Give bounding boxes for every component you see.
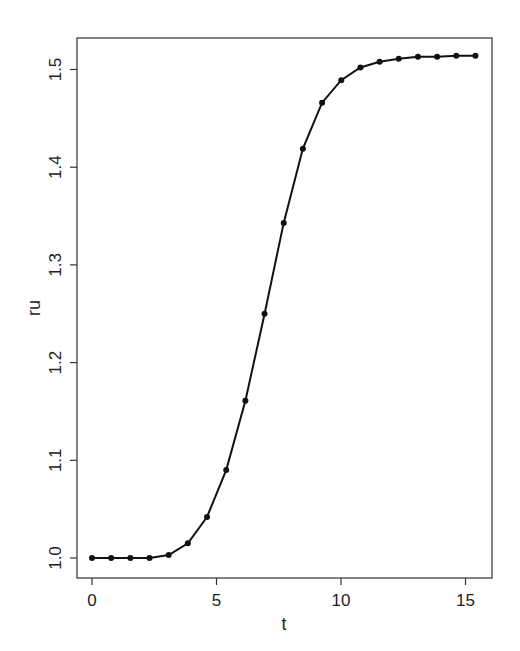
plot-frame — [77, 38, 492, 578]
x-tick-label: 5 — [212, 591, 221, 610]
data-point — [242, 398, 248, 404]
y-tick-label: 1.2 — [46, 351, 65, 375]
x-tick-label: 15 — [456, 591, 475, 610]
x-axis-title: t — [281, 614, 286, 634]
data-point — [262, 311, 268, 317]
series-markers — [89, 53, 478, 561]
data-point — [108, 555, 114, 561]
series-line — [92, 56, 476, 558]
data-point — [338, 77, 344, 83]
x-tick-label: 0 — [87, 591, 96, 610]
data-point — [434, 54, 440, 60]
data-point — [281, 220, 287, 226]
y-axis-title: ru — [24, 300, 44, 316]
data-point — [396, 56, 402, 62]
data-point — [127, 555, 133, 561]
y-tick-label: 1.0 — [46, 546, 65, 570]
y-axis: 1.01.11.21.31.41.5 — [46, 58, 77, 570]
data-point — [472, 53, 478, 59]
data-point — [89, 555, 95, 561]
x-tick-label: 10 — [332, 591, 351, 610]
data-point — [147, 555, 153, 561]
line-chart: 051015 1.01.11.21.31.41.5 t ru — [0, 0, 520, 651]
data-point — [204, 514, 210, 520]
y-tick-label: 1.1 — [46, 448, 65, 472]
data-point — [300, 146, 306, 152]
y-tick-label: 1.5 — [46, 58, 65, 82]
y-tick-label: 1.3 — [46, 253, 65, 277]
data-point — [319, 100, 325, 106]
data-point — [185, 540, 191, 546]
data-point — [453, 53, 459, 59]
data-point — [166, 552, 172, 558]
x-axis: 051015 — [87, 578, 475, 610]
y-tick-label: 1.4 — [46, 155, 65, 179]
data-point — [377, 59, 383, 65]
data-point — [357, 65, 363, 71]
data-point — [223, 467, 229, 473]
data-point — [415, 54, 421, 60]
